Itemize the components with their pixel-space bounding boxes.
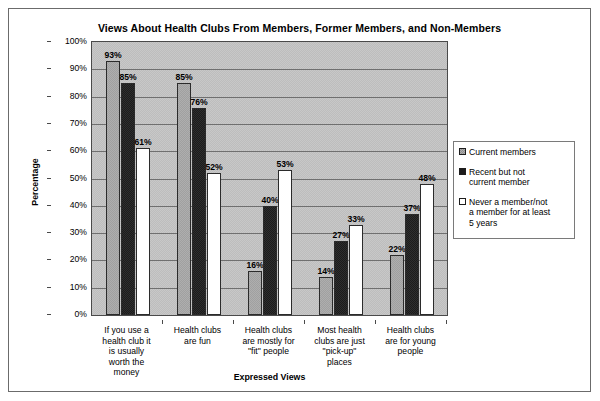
x-axis-tick-mark	[446, 320, 447, 324]
y-axis-title-container: Percentage	[19, 41, 39, 316]
bar	[192, 108, 206, 315]
y-axis-tick-mark	[47, 96, 51, 97]
bar-value-label: 52%	[201, 162, 227, 172]
bar	[278, 170, 292, 315]
gridline	[92, 69, 447, 70]
bar	[121, 83, 135, 315]
x-axis-category-label: Health clubsare fun	[162, 320, 233, 346]
chart-legend: Current membersRecent but not current me…	[453, 141, 575, 239]
y-axis-title: Percentage	[30, 132, 40, 232]
y-axis-tick-label: 50%	[51, 174, 87, 183]
bar	[263, 206, 277, 315]
x-axis-category-label: If you use ahealth club itis usuallywort…	[91, 320, 162, 378]
bar	[106, 61, 120, 315]
legend-item: Recent but not current member	[459, 167, 570, 188]
y-axis-tick-mark	[47, 178, 51, 179]
bar-value-label: 76%	[186, 97, 212, 107]
bar-value-label: 85%	[115, 72, 141, 82]
bar-value-label: 93%	[100, 50, 126, 60]
legend-item: Never a member/not a member for at least…	[459, 197, 570, 229]
bar	[207, 173, 221, 315]
y-axis-tick-label: 90%	[51, 64, 87, 73]
legend-swatch-icon	[459, 148, 466, 155]
bar-value-label: 48%	[414, 173, 440, 183]
y-axis-tick-mark	[47, 123, 51, 124]
legend-item-label: Recent but not current member	[469, 167, 530, 188]
bar-value-label: 53%	[272, 159, 298, 169]
y-axis-tick-mark	[47, 205, 51, 206]
y-axis-ticks: 100%90%80%70%60%50%40%30%20%10%0%	[47, 41, 87, 316]
x-axis-title: Expressed Views	[91, 372, 448, 382]
legend-item-label: Current members	[469, 147, 536, 158]
gridline	[92, 124, 447, 125]
legend-swatch-icon	[459, 198, 466, 205]
y-axis-tick-label: 100%	[51, 37, 87, 46]
gridline	[92, 97, 447, 98]
y-axis-tick-mark	[47, 259, 51, 260]
x-axis-category-label: Health clubsare mostly for"fit" people	[233, 320, 304, 357]
bar	[420, 184, 434, 315]
bar	[177, 83, 191, 315]
bar	[248, 271, 262, 315]
x-axis-category-label: Most healthclubs are just"pick-up"places	[304, 320, 375, 367]
y-axis-tick-label: 70%	[51, 119, 87, 128]
x-axis-category-labels: If you use ahealth club itis usuallywort…	[91, 320, 448, 380]
y-axis-tick-mark	[47, 232, 51, 233]
bar	[136, 148, 150, 315]
legend-swatch-icon	[459, 168, 466, 175]
x-axis-category-label: Health clubsare for youngpeople	[375, 320, 446, 357]
y-axis-tick-label: 40%	[51, 201, 87, 210]
bar-value-label: 61%	[130, 137, 156, 147]
bar	[405, 214, 419, 315]
y-axis-tick-label: 20%	[51, 255, 87, 264]
bar	[349, 225, 363, 315]
legend-item-label: Never a member/not a member for at least…	[469, 197, 550, 229]
bar	[319, 277, 333, 315]
y-axis-tick-mark	[47, 314, 51, 315]
chart-frame: Views About Health Clubs From Members, F…	[8, 8, 591, 392]
y-axis-tick-mark	[47, 41, 51, 42]
plot-area: 93%85%61%85%76%52%16%40%53%14%27%33%22%3…	[91, 41, 448, 316]
bar	[390, 255, 404, 315]
y-axis-tick-mark	[47, 287, 51, 288]
bar-value-label: 33%	[343, 214, 369, 224]
legend-item: Current members	[459, 147, 570, 158]
bar	[334, 241, 348, 315]
y-axis-tick-label: 80%	[51, 92, 87, 101]
y-axis-tick-label: 60%	[51, 146, 87, 155]
y-axis-tick-label: 10%	[51, 283, 87, 292]
y-axis-tick-mark	[47, 68, 51, 69]
bar-value-label: 85%	[171, 72, 197, 82]
y-axis-tick-label: 30%	[51, 228, 87, 237]
y-axis-tick-label: 0%	[51, 310, 87, 319]
y-axis-tick-mark	[47, 150, 51, 151]
chart-title: Views About Health Clubs From Members, F…	[9, 22, 590, 34]
